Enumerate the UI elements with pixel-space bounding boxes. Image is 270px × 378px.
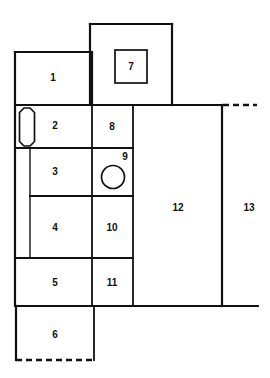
region-label-4: 4 — [52, 222, 58, 233]
region-label-10: 10 — [106, 222, 118, 233]
region-label-8: 8 — [109, 121, 115, 132]
region-label-6: 6 — [52, 329, 58, 340]
region-label-13: 13 — [243, 202, 255, 213]
circle-shape-icon — [102, 166, 125, 189]
floor-plan-diagram: 12345678910111213 — [0, 0, 270, 378]
region-4[interactable] — [30, 196, 92, 258]
region-label-7: 7 — [128, 61, 134, 72]
region-label-5: 5 — [52, 277, 58, 288]
diagram-canvas: 12345678910111213 — [0, 0, 270, 378]
region-label-3: 3 — [52, 166, 58, 177]
region-label-11: 11 — [107, 277, 118, 288]
region-label-1: 1 — [50, 72, 56, 83]
region-label-12: 12 — [172, 202, 184, 213]
region-label-9: 9 — [122, 151, 128, 162]
octagon-shape-icon — [20, 108, 35, 146]
region-3[interactable] — [30, 148, 92, 196]
region-label-2: 2 — [52, 120, 58, 131]
